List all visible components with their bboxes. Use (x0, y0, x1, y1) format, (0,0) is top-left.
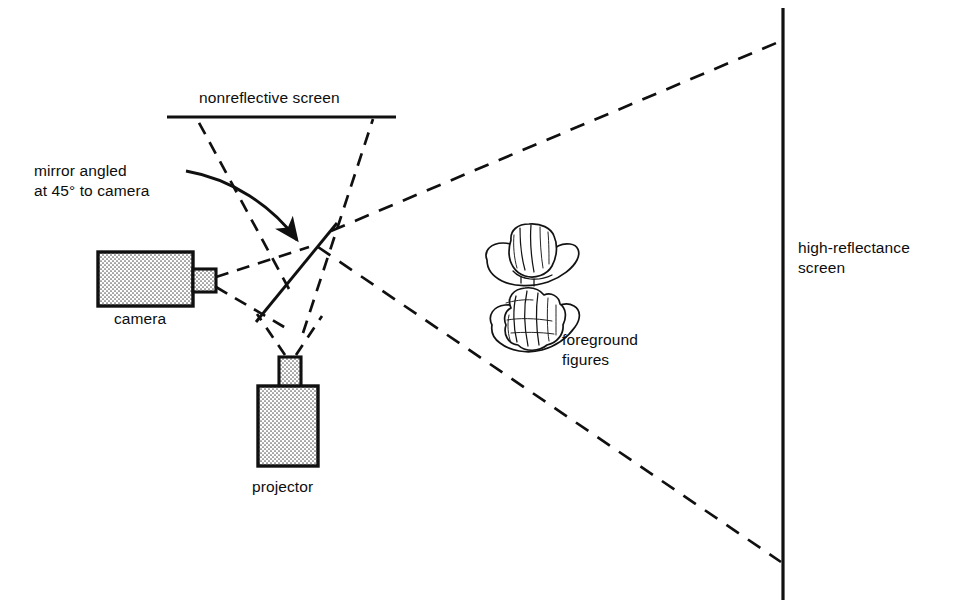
foreground-figures-label-line-1: foreground (562, 331, 638, 348)
nonreflective-screen-label: nonreflective screen (199, 89, 340, 106)
front-projection-diagram: nonreflective screen mirror angled at 45… (0, 0, 962, 607)
camera-label: camera (114, 310, 167, 327)
mirror-label-line-2: at 45° to camera (34, 182, 150, 199)
camera-body (98, 252, 193, 306)
camera-lens (193, 269, 216, 292)
projector-body (258, 386, 318, 466)
high-reflectance-screen-label-line-1: high-reflectance (798, 239, 910, 256)
mirror-label-line-1: mirror angled (34, 162, 127, 179)
high-reflectance-screen-label-line-2: screen (798, 259, 845, 276)
diagram-canvas: nonreflective screen mirror angled at 45… (0, 0, 962, 607)
foreground-figures-label-line-2: figures (562, 351, 609, 368)
projector-lens (279, 357, 301, 388)
projector-label: projector (252, 478, 313, 495)
